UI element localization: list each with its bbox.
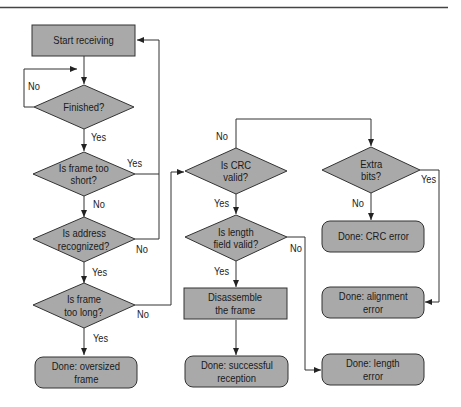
- edge-label-address-no: No: [136, 243, 148, 255]
- text-line: Done: CRC error: [338, 230, 409, 243]
- text-line: Extra: [360, 158, 382, 171]
- edge-label-extra-yes: Yes: [421, 173, 436, 185]
- text-line: Done: length: [346, 357, 400, 370]
- text-line: too long?: [65, 306, 104, 319]
- text-line: Start receiving: [53, 34, 113, 47]
- text-line: reception: [217, 372, 256, 385]
- node-length-valid-label: Is lengthfield valid?: [185, 215, 287, 261]
- node-crc-valid-label: Is CRCvalid?: [185, 148, 287, 194]
- text-line: Is frame: [67, 293, 101, 306]
- text-line: Is address: [62, 227, 106, 240]
- node-address-recognized-label: Is addressrecognized?: [33, 217, 135, 262]
- text-line: frame: [74, 373, 98, 386]
- node-frame-too-long-label: Is frametoo long?: [33, 283, 135, 328]
- edge-label-too-short-yes: Yes: [127, 157, 142, 169]
- text-line: the frame: [216, 304, 256, 317]
- edge-crc-no: [236, 119, 371, 148]
- text-line: Is CRC: [221, 159, 251, 172]
- edge-length-no: [287, 237, 321, 370]
- edge-label-too-long-no: No: [137, 308, 149, 320]
- edge-too-short-yes: [135, 40, 159, 174]
- edge-label-length-no: No: [290, 242, 302, 254]
- text-line: Is length: [218, 226, 254, 239]
- node-done-length-error-label: Done: lengtherror: [322, 354, 424, 385]
- edge-label-too-short-no: No: [93, 198, 105, 210]
- text-line: Done: oversized: [52, 360, 120, 373]
- edge-label-finished-yes: Yes: [91, 131, 106, 143]
- text-line: Finished?: [64, 101, 105, 114]
- text-line: short?: [71, 174, 97, 187]
- node-finished-label: Finished?: [34, 85, 134, 129]
- text-line: recognized?: [58, 240, 109, 253]
- text-line: field valid?: [214, 238, 259, 251]
- node-extra-bits-label: Extrabits?: [322, 147, 420, 193]
- node-disassemble-label: Disassemblethe frame: [184, 288, 287, 319]
- flowchart-canvas: [0, 0, 461, 407]
- node-done-success-label: Done: successfulreception: [185, 356, 288, 387]
- text-line: Disassemble: [208, 291, 262, 304]
- edge-label-extra-no: No: [352, 197, 364, 209]
- text-line: Done: successful: [201, 359, 273, 372]
- text-line: error: [363, 370, 383, 383]
- node-done-alignment-error-label: Done: alignmenterror: [322, 287, 424, 318]
- node-done-oversized-label: Done: oversizedframe: [35, 357, 137, 388]
- node-done-crc-error-label: Done: CRC error: [322, 221, 424, 252]
- node-frame-too-short-label: Is frame tooshort?: [33, 152, 135, 196]
- edge-label-crc-yes: Yes: [214, 197, 229, 209]
- edge-label-finished-no: No: [28, 80, 40, 92]
- edge-label-length-yes: Yes: [214, 265, 229, 277]
- text-line: bits?: [361, 170, 381, 183]
- edge-label-crc-no: No: [216, 130, 228, 142]
- text-line: Done: alignment: [339, 290, 408, 303]
- text-line: error: [363, 303, 383, 316]
- text-line: valid?: [224, 171, 249, 184]
- node-start-receiving-label: Start receiving: [32, 25, 135, 56]
- edge-address-no: [135, 174, 159, 239]
- edge-label-too-long-yes: Yes: [93, 332, 108, 344]
- text-line: Is frame too: [59, 162, 109, 175]
- edge-label-address-yes: Yes: [92, 266, 107, 278]
